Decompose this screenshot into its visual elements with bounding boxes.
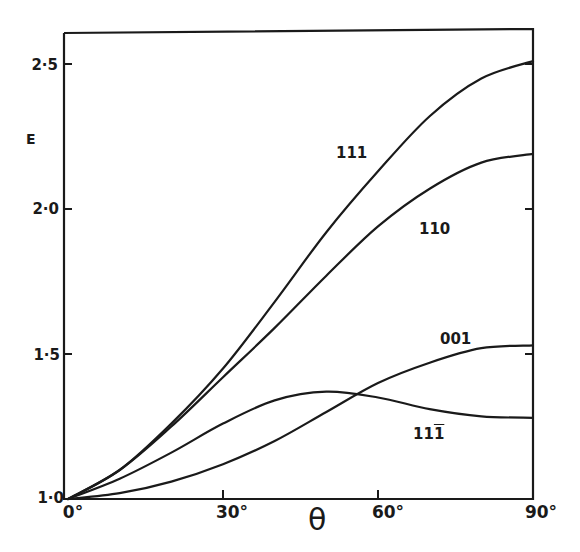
x-tick-label-30: 30° <box>216 504 248 521</box>
y-tick-label-1.0: 1·0 <box>24 491 64 506</box>
curve-111 <box>68 61 533 499</box>
x-tick-label-0: 0° <box>63 504 83 521</box>
curve-label-11bar1-bar: 1 <box>434 425 444 443</box>
curve-110 <box>68 154 533 499</box>
x-tick-label-60: 60° <box>372 504 404 521</box>
chart-plot-area <box>0 0 580 552</box>
curve-label-11bar1: 111 <box>413 427 444 442</box>
y-tick-label-2.5: 2·5 <box>18 58 58 73</box>
y-tick-label-2.0: 2·0 <box>19 202 59 217</box>
tick-marks <box>64 64 533 499</box>
curve-label-111: 111 <box>336 146 367 161</box>
x-axis-label: θ <box>308 505 326 535</box>
y-axis-label: E <box>26 132 36 146</box>
curves <box>68 61 533 499</box>
curve-label-11bar1-prefix: 11 <box>413 425 434 443</box>
y-tick-label-1.5: 1·5 <box>20 348 60 363</box>
curve-11bar1 <box>68 392 533 499</box>
curve-label-110: 110 <box>419 222 450 237</box>
x-tick-label-90: 90° <box>525 504 557 521</box>
curve-001 <box>68 345 533 499</box>
curve-label-001: 001 <box>440 332 471 347</box>
